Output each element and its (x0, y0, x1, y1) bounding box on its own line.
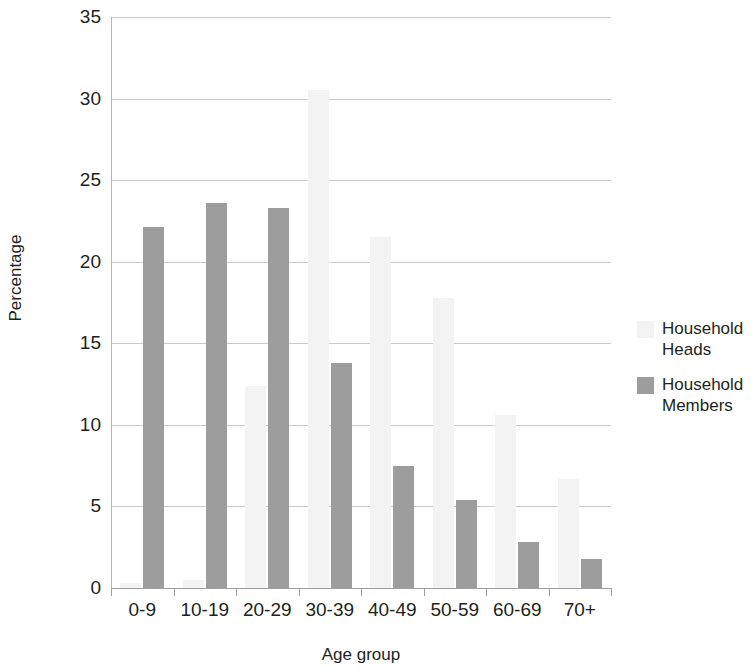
bar-20-29-heads (245, 386, 266, 588)
x-tick-5 (424, 588, 425, 596)
legend-item-label: HouseholdHeads (662, 318, 743, 360)
x-tick-0 (111, 588, 112, 596)
y-tick-label-25: 25 (41, 170, 101, 189)
y-tick-label-20: 20 (41, 252, 101, 271)
legend-swatch-icon (637, 377, 654, 394)
bar-60-69-members (518, 542, 539, 588)
x-tick-6 (486, 588, 487, 596)
y-axis-title: Percentage (6, 198, 26, 358)
bar-70+-heads (558, 479, 579, 588)
x-tick-8 (611, 588, 612, 596)
x-tick-7 (549, 588, 550, 596)
bar-0-9-members (143, 227, 164, 588)
y-tick-label-30: 30 (41, 89, 101, 108)
bar-60-69-heads (495, 415, 516, 588)
y-tick-label-5: 5 (41, 496, 101, 515)
x-tick-3 (299, 588, 300, 596)
x-axis-title: Age group (111, 645, 611, 665)
legend-item-household-heads[interactable]: HouseholdHeads (637, 318, 756, 360)
legend-item-household-members[interactable]: HouseholdMembers (637, 374, 756, 416)
bar-30-39-heads (308, 90, 329, 588)
bar-50-59-members (456, 500, 477, 588)
y-axis-line (111, 17, 112, 588)
bar-10-19-members (206, 203, 227, 588)
bar-50-59-heads (433, 298, 454, 588)
x-tick-label-70+: 70+ (535, 599, 625, 621)
x-tick-1 (174, 588, 175, 596)
chart-legend: HouseholdHeadsHouseholdMembers (637, 318, 756, 430)
bar-40-49-members (393, 466, 414, 588)
plot-area (111, 17, 611, 588)
bar-10-19-heads (183, 580, 204, 588)
bar-20-29-members (268, 208, 289, 588)
legend-swatch-icon (637, 321, 654, 338)
bar-30-39-members (331, 363, 352, 588)
x-tick-2 (236, 588, 237, 596)
x-tick-4 (361, 588, 362, 596)
bar-chart-figure: 05101520253035 Percentage 0-910-1920-293… (0, 0, 756, 672)
y-tick-label-35: 35 (41, 7, 101, 26)
y-tick-label-0: 0 (41, 578, 101, 597)
y-axis-tick-labels: 05101520253035 (35, 17, 101, 588)
legend-item-label: HouseholdMembers (662, 374, 743, 416)
bar-40-49-heads (370, 237, 391, 588)
y-tick-label-10: 10 (41, 415, 101, 434)
bar-70+-members (581, 559, 602, 588)
bars-layer (111, 17, 611, 588)
y-tick-label-15: 15 (41, 333, 101, 352)
